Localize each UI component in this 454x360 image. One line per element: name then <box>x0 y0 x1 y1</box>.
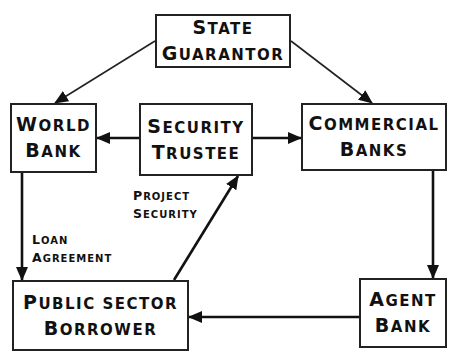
node-label-line: Bank <box>375 313 431 339</box>
node-public-sector-borrower: Public Sector Borrower <box>12 280 189 351</box>
node-agent-bank: Agent Bank <box>359 278 447 348</box>
node-commercial-banks: Commercial Banks <box>301 103 447 171</box>
edge-label-line: Project <box>133 187 198 205</box>
node-label-line: Commercial <box>308 111 439 137</box>
edge-label-loan-agreement: Loan Agreement <box>32 231 112 267</box>
node-label-line: Borrower <box>44 316 157 342</box>
node-label-line: Trustee <box>152 140 241 166</box>
edge-label-line: Loan <box>32 231 112 249</box>
edge-state-guarantor-to-commercial-banks <box>291 41 372 103</box>
edge-label-line: Security <box>133 205 198 223</box>
node-label-line: Banks <box>340 137 409 163</box>
node-state-guarantor: State Guarantor <box>155 14 291 68</box>
node-label-line: Guarantor <box>162 41 285 67</box>
node-label-line: World <box>16 112 91 138</box>
node-label-line: Public Sector <box>23 290 178 316</box>
node-label-line: State <box>192 15 253 41</box>
edge-label-project-security: Project Security <box>133 187 198 223</box>
node-label-line: Bank <box>25 138 81 164</box>
edge-state-guarantor-to-world-bank <box>55 41 155 103</box>
node-security-trustee: Security Trustee <box>139 103 253 176</box>
edge-label-line: Agreement <box>32 249 112 267</box>
node-label-line: Security <box>147 114 244 140</box>
node-world-bank: World Bank <box>10 103 97 173</box>
node-label-line: Agent <box>369 287 437 313</box>
